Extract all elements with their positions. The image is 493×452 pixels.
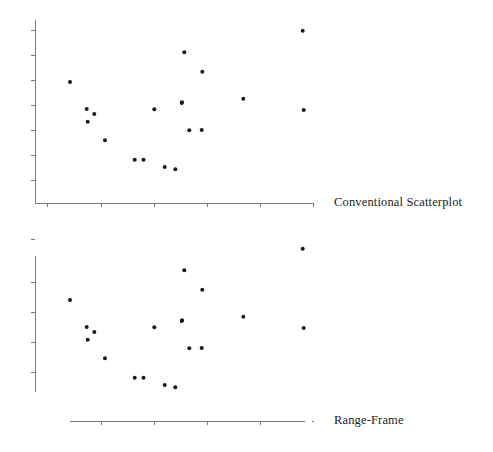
scatter-point	[133, 376, 137, 380]
scatter-point	[92, 330, 96, 334]
scatter-point	[241, 315, 245, 319]
scatter-point	[187, 346, 191, 350]
scatter-point	[200, 288, 204, 292]
scatter-point	[68, 298, 72, 302]
scatter-point	[103, 356, 107, 360]
scatter-point	[86, 338, 90, 342]
scatter-point	[142, 376, 146, 380]
scatter-points-range-frame	[0, 0, 340, 452]
panel-label-range-frame: Range-Frame	[334, 414, 404, 427]
scatter-point	[301, 247, 305, 251]
scatter-point	[163, 383, 167, 387]
scatter-point	[173, 385, 177, 389]
scatter-point	[152, 325, 156, 329]
scatter-point	[180, 318, 184, 322]
scatter-point	[182, 268, 186, 272]
scatter-point	[200, 346, 204, 350]
panel-range-frame: Range-Frame	[0, 0, 493, 452]
figure-root: Conventional Scatterplot Range-Frame	[0, 0, 493, 452]
plot-area-range-frame	[0, 0, 340, 452]
scatter-point	[302, 326, 306, 330]
scatter-point	[85, 325, 89, 329]
